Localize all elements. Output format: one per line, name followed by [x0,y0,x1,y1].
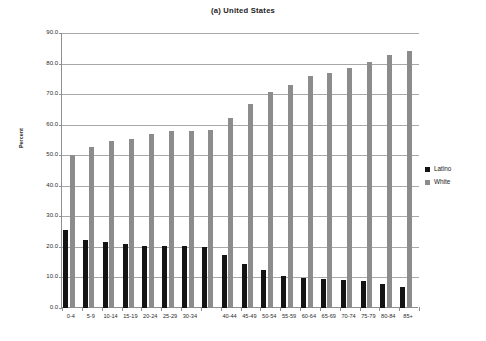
bar-latino [380,284,385,308]
bar-latino [142,246,147,308]
y-tick-label: 20.0 [28,243,58,249]
bar-group [260,33,280,308]
y-tick-label: 40.0 [28,182,58,188]
bar-group [399,33,419,308]
y-tick-label: 50.0 [28,151,58,157]
chart-figure: (a) United States Percent 0.010.020.030.… [0,0,486,341]
bar-white [387,55,392,308]
x-tick-mark [141,307,142,311]
bar-latino [261,270,266,308]
bar-group [102,33,122,308]
x-tick-mark [300,307,301,311]
y-axis-label: Percent [18,128,24,148]
bar-latino [182,246,187,308]
y-tick-label: 80.0 [28,60,58,66]
legend-item: White [425,179,451,185]
x-tick-mark [340,307,341,311]
x-tick-label: 80-84 [381,313,395,319]
bar-latino [341,280,346,308]
x-tick-label: 45-49 [242,313,256,319]
x-tick-label: 10-14 [103,313,117,319]
x-tick-label: 25-29 [163,313,177,319]
bar-group [320,33,340,308]
x-tick-mark [419,307,420,311]
x-tick-mark [399,307,400,311]
bar-group [241,33,261,308]
bar-group [62,33,82,308]
legend-swatch-icon [425,167,430,172]
x-tick-label: 70-74 [341,313,355,319]
plot-area: 0.010.020.030.040.050.060.070.080.090.0 [61,33,418,308]
bar-white [169,131,174,308]
x-tick-mark [379,307,380,311]
bar-latino [83,240,88,308]
x-tick-mark [102,307,103,311]
bar-latino [321,279,326,308]
y-tick-label: 70.0 [28,90,58,96]
bar-group [82,33,102,308]
x-tick-mark [221,307,222,311]
bar-latino [162,246,167,308]
bar-group [181,33,201,308]
x-tick-label: 15-19 [123,313,137,319]
bar-white [149,134,154,308]
bar-white [208,130,213,308]
bar-latino [242,264,247,308]
y-tick-label: 90.0 [28,29,58,35]
x-tick-mark [201,307,202,311]
bar-white [367,62,372,308]
bar-latino [361,281,366,308]
x-tick-mark [241,307,242,311]
bar-latino [63,230,68,308]
bar-white [248,104,253,308]
x-tick-mark [161,307,162,311]
chart-title: (a) United States [0,6,486,15]
x-tick-mark [62,307,63,311]
bar-group [122,33,142,308]
bar-white [288,85,293,308]
x-tick-mark [260,307,261,311]
bar-latino [281,276,286,308]
x-tick-label: 30-34 [183,313,197,319]
bar-group [300,33,320,308]
y-tick-label: 30.0 [28,212,58,218]
x-tick-label: 55-59 [282,313,296,319]
bar-white [129,139,134,308]
x-tick-mark [360,307,361,311]
x-tick-label: 75-79 [361,313,375,319]
bar-group [379,33,399,308]
x-tick-mark [122,307,123,311]
bar-white [308,76,313,308]
legend-swatch-icon [425,180,430,185]
bar-white [407,51,412,308]
x-tick-mark [82,307,83,311]
x-tick-label: 85+ [403,313,413,319]
bar-group [340,33,360,308]
bar-white [327,73,332,308]
x-tick-mark [181,307,182,311]
bar-white [109,141,114,308]
bar-group [280,33,300,308]
x-tick-mark [280,307,281,311]
x-tick-label: 5-9 [87,313,95,319]
bar-group [221,33,241,308]
x-tick-label: 50-54 [262,313,276,319]
bar-latino [202,247,207,308]
chart-legend: LatinoWhite [425,166,451,193]
bar-group [141,33,161,308]
bar-latino [222,255,227,308]
bar-white [347,68,352,308]
bar-white [268,92,273,308]
y-tick-label: 60.0 [28,121,58,127]
x-tick-label: 20-24 [143,313,157,319]
bar-group [201,33,221,308]
bar-latino [301,278,306,308]
bar-white [189,131,194,308]
bar-latino [123,244,128,308]
x-tick-label: 65-69 [322,313,336,319]
x-tick-label: 60-64 [302,313,316,319]
bar-white [228,118,233,308]
bars-layer [62,33,419,308]
bar-white [70,155,75,308]
legend-label: Latino [434,166,451,172]
